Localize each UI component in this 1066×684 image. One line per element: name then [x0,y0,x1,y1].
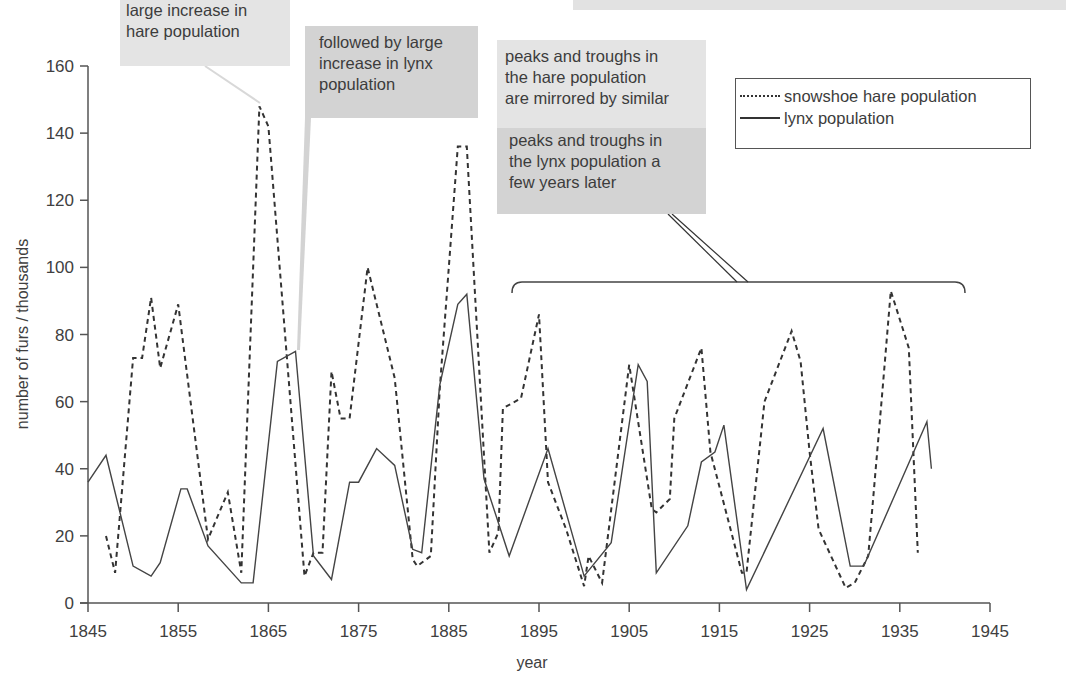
annotation-line: are mirrored by similar [505,88,700,109]
y-tick-label: 100 [46,258,74,277]
y-tick-label: 40 [55,460,74,479]
x-tick-label: 1935 [881,622,919,641]
annotation-line: few years later [509,172,700,193]
x-tick-label: 1895 [520,622,558,641]
annotation-line: followed by large [319,32,472,53]
annotation-line: hare population [126,21,284,42]
lynx-population-line [88,294,931,589]
x-tick-label: 1925 [791,622,829,641]
annotation-line: the hare population [505,67,700,88]
legend-item-lynx: lynx population [740,107,1026,129]
y-tick-label: 120 [46,191,74,210]
annotation-lynx-increase: followed by large increase in lynx popul… [305,26,478,118]
legend-item-hare: snowshoe hare population [740,85,1026,107]
legend-label-lynx: lynx population [784,109,894,128]
annotation-line: peaks and troughs in [509,130,700,151]
annotation-line: large increase in [126,0,284,21]
x-tick-label: 1905 [610,622,648,641]
annotation-hare-increase: large increase in hare population [120,0,290,66]
annotation-mirror-lynx: peaks and troughs in the lynx population… [497,128,706,214]
x-tick-label: 1945 [971,622,1009,641]
y-tick-label: 60 [55,393,74,412]
y-tick-label: 80 [55,326,74,345]
x-tick-label: 1915 [700,622,738,641]
annotation-line: population [319,74,472,95]
solid-line-icon [740,117,780,119]
x-tick-label: 1865 [249,622,287,641]
y-tick-label: 160 [46,57,74,76]
legend: snowshoe hare population lynx population [735,78,1031,149]
x-tick-label: 1885 [430,622,468,641]
range-bracket [512,282,965,293]
annotation-mirror-hare: peaks and troughs in the hare population… [497,40,706,128]
annotation-line: peaks and troughs in [505,46,700,67]
annotation-line: the lynx population a [509,151,700,172]
y-tick-label: 140 [46,124,74,143]
y-tick-label: 0 [65,594,74,613]
y-axis-title: number of furs / thousands [14,239,31,429]
x-tick-label: 1875 [340,622,378,641]
y-tick-label: 20 [55,527,74,546]
x-tick-label: 1845 [69,622,107,641]
x-axis-title: year [516,654,548,671]
annotation-line: increase in lynx [319,53,472,74]
x-tick-label: 1855 [159,622,197,641]
legend-label-hare: snowshoe hare population [784,87,977,106]
dashed-line-icon [740,95,780,97]
